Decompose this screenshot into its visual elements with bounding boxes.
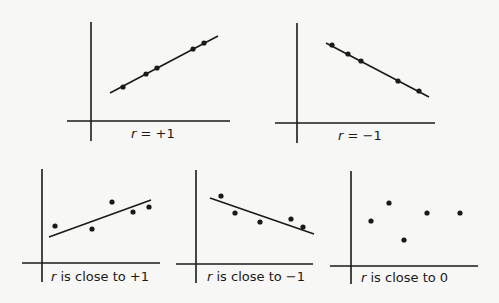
data-point (130, 209, 135, 214)
correlation-diagram (0, 0, 499, 303)
data-point (368, 218, 373, 223)
data-point (257, 219, 262, 224)
data-point (232, 210, 237, 215)
label-r-close-zero: r is close to 0 (361, 270, 448, 285)
data-point (424, 210, 429, 215)
data-point (329, 42, 334, 47)
data-point (154, 65, 159, 70)
data-point (89, 226, 94, 231)
trend-line (326, 43, 429, 97)
data-point (395, 78, 400, 83)
data-point (358, 58, 363, 63)
data-point (146, 204, 151, 209)
label-r-plus-one: r = +1 (131, 126, 175, 141)
data-point (401, 237, 406, 242)
data-point (120, 84, 125, 89)
data-point (288, 216, 293, 221)
label-r-close-plus-one: r is close to +1 (51, 269, 149, 284)
data-point (386, 200, 391, 205)
label-r-minus-one: r = −1 (338, 128, 382, 143)
data-point (143, 71, 148, 76)
data-point (457, 210, 462, 215)
label-r-close-minus-one: r is close to −1 (207, 269, 305, 284)
data-point (218, 193, 223, 198)
trend-line (49, 200, 151, 237)
data-point (109, 199, 114, 204)
trend-line (110, 36, 218, 93)
data-point (190, 46, 195, 51)
data-point (300, 224, 305, 229)
data-point (201, 40, 206, 45)
data-point (345, 51, 350, 56)
data-point (52, 223, 57, 228)
trend-line (210, 198, 314, 234)
data-point (416, 88, 421, 93)
